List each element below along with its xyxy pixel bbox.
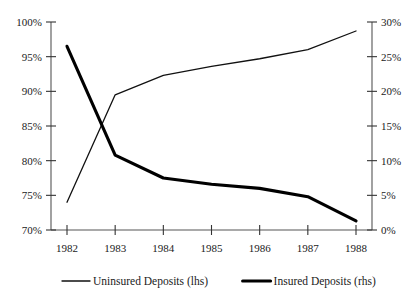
left-axis-tick-label: 90%: [22, 85, 42, 97]
right-axis-tick-label: 15%: [381, 120, 401, 132]
right-axis-tick-label: 0%: [381, 224, 396, 236]
left-axis-tick-label: 80%: [22, 155, 42, 167]
x-axis-tick-label: 1985: [201, 242, 224, 254]
tick-marks: [46, 22, 377, 235]
x-axis-tick-label: 1983: [104, 242, 127, 254]
series-line-1: [67, 31, 356, 202]
x-axis-tick-label: 1986: [249, 242, 272, 254]
right-axis-tick-label: 10%: [381, 155, 401, 167]
data-series: [67, 31, 356, 221]
right-axis-tick-label: 20%: [381, 85, 401, 97]
tick-labels: 70%75%80%85%90%95%100%0%5%10%15%20%25%30…: [16, 16, 401, 254]
x-axis-tick-label: 1988: [345, 242, 368, 254]
chart-container: 70%75%80%85%90%95%100%0%5%10%15%20%25%30…: [0, 0, 415, 305]
chart-legend: Uninsured Deposits (lhs)Insured Deposits…: [62, 275, 376, 288]
left-axis-tick-label: 75%: [22, 189, 42, 201]
x-axis-tick-label: 1982: [56, 242, 78, 254]
x-axis-tick-label: 1984: [152, 242, 175, 254]
legend-label-1: Uninsured Deposits (lhs): [93, 275, 208, 288]
left-axis-tick-label: 95%: [22, 51, 42, 63]
axes: [51, 22, 372, 230]
left-axis-tick-label: 85%: [22, 120, 42, 132]
series-line-2: [67, 46, 356, 221]
left-axis-tick-label: 100%: [16, 16, 42, 28]
right-axis-tick-label: 5%: [381, 189, 396, 201]
right-axis-tick-label: 30%: [381, 16, 401, 28]
left-axis-tick-label: 70%: [22, 224, 42, 236]
x-axis-tick-label: 1987: [297, 242, 320, 254]
right-axis-tick-label: 25%: [381, 51, 401, 63]
line-chart: 70%75%80%85%90%95%100%0%5%10%15%20%25%30…: [0, 0, 415, 305]
legend-label-2: Insured Deposits (rhs): [274, 275, 376, 288]
